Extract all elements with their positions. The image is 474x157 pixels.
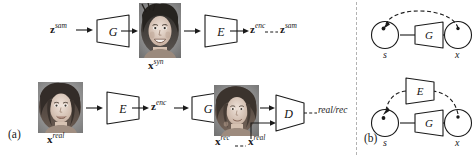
synth-image-caption: xsyn [148, 60, 164, 71]
arrow-encoder-to-enc-latent-bottom [132, 102, 150, 114]
real-face-thumbnail [38, 82, 83, 133]
real-image-caption-sup: real [53, 131, 65, 140]
discriminator-block: D [275, 94, 305, 132]
arrow-latent-to-generator-top [76, 24, 94, 36]
panel-b-bottom-encoder-block: E [405, 77, 435, 105]
discriminator-block-letter: D [272, 107, 305, 122]
dashed-loss-connector-bottom [235, 142, 247, 150]
figure-canvas: (a) zsam G [0, 0, 474, 157]
panel-b-top-target-label: x [455, 50, 459, 60]
rec-image-caption-sup: rec [221, 133, 230, 142]
bottom-enc-latent-label: zenc [151, 101, 166, 112]
top-enc-latent-sup: enc [255, 21, 265, 30]
arrow-generator-to-synth-image [121, 25, 139, 37]
panel-b-bottom-target-label: x [455, 138, 459, 148]
dashed-discriminator-output-line [304, 109, 318, 117]
top-enc-latent-label: zenc [250, 24, 265, 35]
panel-b-top-source-label: s [383, 50, 387, 60]
synth-image-caption-sup: syn [154, 57, 164, 66]
panel-b-bottom-source-label: s [383, 138, 387, 148]
arrow-enc-latent-to-generator-bottom [174, 102, 190, 114]
arrow-synth-image-to-encoder [184, 25, 202, 37]
rec-image-caption: xrec [215, 136, 230, 147]
top-target-latent-label: zsam [280, 24, 297, 35]
discriminator-output-label: real/rec [318, 106, 347, 116]
arrow-encoder-to-enc-latent-top [230, 25, 250, 37]
top-input-latent-label: zsam [50, 24, 67, 35]
arrow-real-image-to-encoder [86, 102, 104, 114]
panel-a-label: (a) [8, 128, 21, 140]
dashed-loss-connector-top [265, 28, 279, 36]
synthetic-face-thumbnail [139, 3, 181, 58]
panel-divider [356, 2, 357, 155]
panel-b-top-dashed-inference-arc [378, 2, 464, 32]
top-target-latent-sup: sam [285, 21, 297, 30]
top-input-latent-sup: sam [55, 21, 67, 30]
real-image-caption: xreal [47, 134, 64, 145]
bottom-enc-latent-sup: enc [156, 98, 166, 107]
panel-b-bottom-encoder-letter: E [405, 85, 435, 97]
